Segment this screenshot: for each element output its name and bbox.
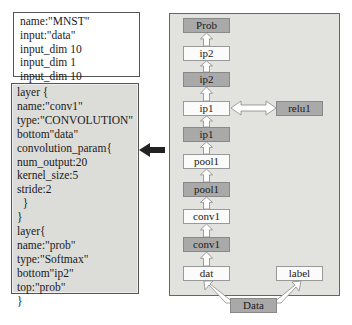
layer-node: ip2 — [183, 72, 230, 87]
up-arrow-icon — [201, 252, 213, 266]
layer-node: dat — [183, 266, 230, 281]
relu-node: relu1 — [276, 101, 323, 116]
layer-node: pool1 — [183, 182, 230, 197]
data-node: Data — [230, 298, 277, 313]
up-arrow-icon — [201, 87, 213, 101]
layer-node: Prob — [183, 18, 230, 33]
up-arrow-icon — [201, 61, 213, 72]
relu-double-arrow-icon — [231, 101, 276, 115]
layer-node: conv1 — [183, 237, 230, 252]
up-arrow-icon — [201, 33, 213, 46]
mapping-arrow-icon — [139, 143, 165, 157]
layer-node: ip1 — [183, 127, 230, 142]
up-arrow-icon — [201, 142, 213, 154]
layer-node: pool1 — [183, 154, 230, 169]
data-to-label-arrow-icon — [273, 281, 301, 303]
layer-node: conv1 — [183, 209, 230, 224]
layer-node: ip1 — [183, 101, 230, 116]
up-arrow-icon — [201, 169, 213, 182]
up-arrow-icon — [201, 197, 213, 209]
label-node: label — [276, 266, 323, 281]
layer-node: ip2 — [183, 46, 230, 61]
up-arrow-icon — [201, 224, 213, 237]
up-arrow-icon — [201, 116, 213, 127]
